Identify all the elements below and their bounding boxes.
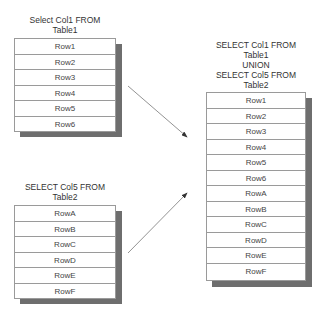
arrow-table1-to-result — [128, 86, 187, 137]
arrow-table2-to-result — [128, 193, 187, 253]
arrows — [0, 0, 326, 323]
